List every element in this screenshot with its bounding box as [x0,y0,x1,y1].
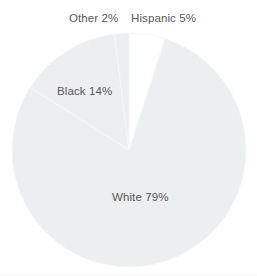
pie-slice-group [12,33,246,267]
pie-label-black: Black 14% [57,84,112,98]
pie-label-white: White 79% [112,190,169,204]
pie-chart-figure: Other 2% Hispanic 5% Black 14% White 79% [0,0,257,276]
pie-chart-graphic [0,0,257,276]
